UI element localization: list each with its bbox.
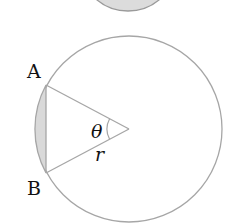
angle-label-theta: θ bbox=[91, 120, 103, 142]
shaded-segment bbox=[35, 85, 46, 173]
circle-segment-diagram: A B θ r bbox=[0, 0, 230, 224]
top-partial-circle bbox=[79, 0, 177, 11]
point-label-a: A bbox=[26, 60, 41, 82]
point-label-b: B bbox=[27, 177, 41, 199]
